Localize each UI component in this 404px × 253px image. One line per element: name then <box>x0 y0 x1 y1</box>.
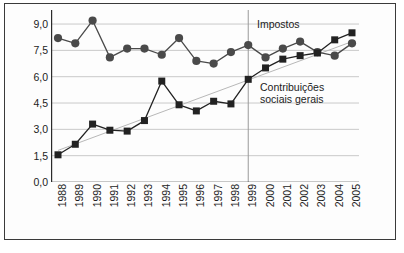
y-axis-tick-labels: 0,01,53,04,56,07,59,0 <box>6 10 48 182</box>
data-point-impostos <box>106 53 114 61</box>
data-point-contribuicoes <box>349 29 356 36</box>
x-axis-tick-label: 1993 <box>142 184 154 207</box>
x-axis-tick-label: 1992 <box>125 184 137 207</box>
x-axis-tick-label: 2004 <box>333 184 345 207</box>
x-axis-tick-label: 1991 <box>108 184 120 207</box>
data-point-contribuicoes <box>314 50 321 57</box>
data-point-contribuicoes <box>176 101 183 108</box>
series-label-contribuicoes-line2: sociais gerais <box>260 93 324 105</box>
data-point-impostos <box>140 45 148 53</box>
x-axis-tick-label: 1999 <box>246 184 258 207</box>
x-axis-tick-label: 2002 <box>298 184 310 207</box>
data-point-contribuicoes <box>89 121 96 128</box>
data-point-impostos <box>279 45 287 53</box>
x-axis-tick-label: 2001 <box>281 184 293 207</box>
x-axis-tick-labels: 1988198919901991199219931994199519961997… <box>51 184 359 244</box>
data-point-impostos <box>210 59 218 67</box>
data-point-impostos <box>175 34 183 42</box>
data-point-contribuicoes <box>124 128 131 135</box>
data-point-impostos <box>296 37 304 45</box>
data-point-impostos <box>331 52 339 60</box>
data-point-contribuicoes <box>245 76 252 83</box>
data-point-contribuicoes <box>297 52 304 59</box>
data-point-contribuicoes <box>210 98 217 105</box>
y-axis-tick-label: 4,5 <box>33 97 48 109</box>
data-point-contribuicoes <box>55 151 62 158</box>
x-axis-tick-label: 2000 <box>264 184 276 207</box>
data-point-impostos <box>227 48 235 56</box>
data-point-impostos <box>244 41 252 49</box>
data-point-impostos <box>192 57 200 65</box>
y-axis-tick-label: 3,0 <box>33 123 48 135</box>
x-axis-tick-label: 1990 <box>91 184 103 207</box>
y-axis-tick-label: 9,0 <box>33 18 48 30</box>
data-point-contribuicoes <box>141 117 148 124</box>
y-axis-tick-label: 7,5 <box>33 44 48 56</box>
data-point-contribuicoes <box>193 107 200 114</box>
y-axis-tick-label: 0,0 <box>33 176 48 188</box>
data-point-impostos <box>158 51 166 59</box>
data-point-impostos <box>348 39 356 47</box>
data-point-contribuicoes <box>158 78 165 85</box>
data-point-contribuicoes <box>227 100 234 107</box>
data-point-contribuicoes <box>106 127 113 134</box>
series-label-contribuicoes: Contribuições sociais gerais <box>260 81 324 105</box>
chart-figure: 0,01,53,04,56,07,59,0 198819891990199119… <box>0 0 404 253</box>
series-line-impostos <box>58 21 352 64</box>
x-axis-tick-label: 1988 <box>56 184 68 207</box>
x-axis-tick-label: 1994 <box>160 184 172 207</box>
x-axis-tick-label: 1995 <box>177 184 189 207</box>
x-axis-tick-label: 1997 <box>212 184 224 207</box>
x-axis-tick-label: 1998 <box>229 184 241 207</box>
data-point-contribuicoes <box>331 36 338 43</box>
x-axis-tick-label: 2003 <box>315 184 327 207</box>
data-point-contribuicoes <box>262 64 269 71</box>
data-point-contribuicoes <box>72 141 79 148</box>
data-point-impostos <box>71 39 79 47</box>
x-axis-tick-label: 1996 <box>194 184 206 207</box>
data-point-impostos <box>261 53 269 61</box>
y-axis-tick-label: 6,0 <box>33 71 48 83</box>
x-axis-tick-label: 2005 <box>350 184 362 207</box>
data-point-contribuicoes <box>279 56 286 63</box>
x-axis-tick-label: 1989 <box>73 184 85 207</box>
series-label-contribuicoes-line1: Contribuições <box>260 81 324 93</box>
data-point-impostos <box>54 34 62 42</box>
data-point-impostos <box>88 16 96 24</box>
data-point-impostos <box>123 45 131 53</box>
series-label-impostos: Impostos <box>257 18 300 30</box>
y-axis-tick-label: 1,5 <box>33 150 48 162</box>
